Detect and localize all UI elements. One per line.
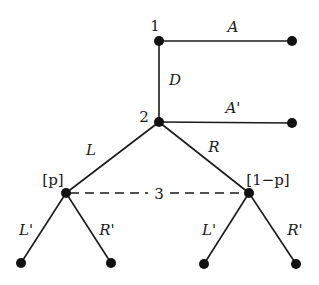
action-label-left-R-prime: R' bbox=[99, 223, 114, 238]
action-label-L: L bbox=[86, 143, 96, 158]
action-label-A-prime: A' bbox=[226, 101, 241, 116]
decision-node-player1 bbox=[154, 36, 164, 46]
action-label-left-L-prime: L' bbox=[19, 223, 33, 238]
belief-label-left: [p] bbox=[42, 173, 63, 188]
edge-A-prime bbox=[159, 122, 292, 123]
edge-L bbox=[66, 122, 159, 193]
action-label-R: R bbox=[208, 140, 219, 155]
edge-R bbox=[159, 122, 249, 193]
terminal-node-right-L-prime bbox=[199, 259, 209, 269]
game-tree-diagram: 1 2 3 A D A' L R L' R' L' R' [p] [1−p] bbox=[0, 0, 319, 285]
terminal-node-right-R-prime bbox=[291, 259, 301, 269]
terminal-node-left-L-prime bbox=[16, 258, 26, 268]
decision-node-player3-left bbox=[61, 188, 71, 198]
terminal-node-A bbox=[287, 36, 297, 46]
action-label-right-R-prime: R' bbox=[287, 223, 302, 238]
player3-label: 3 bbox=[154, 187, 164, 202]
action-label-right-L-prime: L' bbox=[202, 223, 216, 238]
terminal-node-left-R-prime bbox=[106, 258, 116, 268]
game-tree-graphic bbox=[0, 0, 319, 285]
action-label-A: A bbox=[228, 20, 239, 35]
belief-label-right: [1−p] bbox=[246, 173, 289, 188]
decision-node-player2 bbox=[154, 117, 164, 127]
action-label-D: D bbox=[169, 73, 181, 88]
terminal-node-A-prime bbox=[287, 118, 297, 128]
player1-label: 1 bbox=[150, 19, 160, 34]
decision-node-player3-right bbox=[244, 188, 254, 198]
player2-label: 2 bbox=[139, 110, 149, 125]
